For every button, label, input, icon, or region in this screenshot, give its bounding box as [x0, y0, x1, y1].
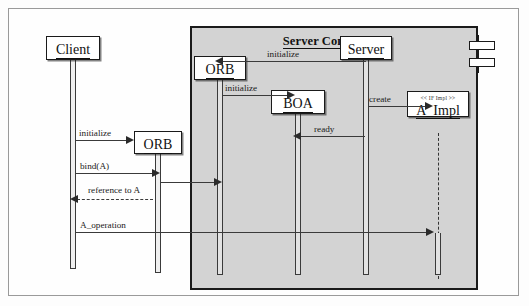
arrowhead-initialize-server-to-orb [215, 57, 223, 65]
message-line-initialize-orb-to-boa [222, 95, 288, 96]
object-box-client[interactable]: Client [46, 36, 100, 60]
sequence-diagram-canvas: Server Component Client ORB O [0, 0, 529, 306]
message-line-reference-to-a [77, 199, 153, 200]
lifeline-server [363, 59, 369, 275]
arrowhead-reference-to-a [70, 195, 78, 203]
arrowhead-initialize-client [126, 136, 134, 144]
object-stereotype-a-impl: << IF Impl >> [408, 96, 468, 102]
arrowhead-bind-forward [214, 178, 222, 186]
arrowhead-initialize-orb-to-boa [287, 91, 295, 99]
lifeline-a-impl-activation [435, 233, 441, 275]
object-label-server: Server [348, 43, 385, 59]
arrowhead-create [425, 102, 433, 110]
arrowhead-a-operation [426, 228, 434, 236]
component-icon [468, 35, 502, 73]
message-line-ready [300, 136, 365, 137]
message-label-ready: ready [314, 125, 334, 134]
object-box-client-orb[interactable]: ORB [134, 131, 182, 154]
lifeline-server-orb [217, 79, 223, 275]
object-box-server[interactable]: Server [340, 36, 392, 60]
object-box-boa[interactable]: BOA [271, 90, 325, 114]
message-label-a-operation: A_operation [80, 221, 126, 230]
message-label-bind: bind(A) [80, 162, 109, 171]
message-line-create [368, 106, 426, 107]
message-line-initialize-server-to-orb [222, 61, 366, 62]
server-component-title: Server Component [192, 34, 476, 49]
message-line-initialize-client [75, 140, 127, 141]
object-label-boa: BOA [283, 97, 313, 113]
message-line-bind-forward [160, 182, 215, 183]
component-icon-tab-top [469, 41, 495, 50]
arrowhead-bind [152, 169, 160, 177]
arrowhead-ready [293, 132, 301, 140]
figure-frame: Server Component Client ORB O [8, 8, 519, 296]
component-icon-tab-bottom [469, 58, 495, 67]
object-label-server-orb: ORB [206, 63, 235, 79]
object-box-a-impl[interactable]: << IF Impl >> A_Impl [407, 91, 469, 117]
message-label-initialize-server-to-orb: initialize [267, 50, 299, 59]
message-label-initialize-client: initialize [79, 129, 111, 138]
message-label-initialize-orb-to-boa: initialize [225, 84, 257, 93]
lifeline-client [70, 59, 76, 269]
message-line-a-operation [75, 232, 427, 233]
message-label-create: create [369, 95, 391, 104]
object-label-client-orb: ORB [144, 138, 173, 154]
object-label-client: Client [56, 43, 90, 59]
message-label-reference-to-a: reference to A [88, 186, 140, 195]
message-line-bind [75, 173, 153, 174]
